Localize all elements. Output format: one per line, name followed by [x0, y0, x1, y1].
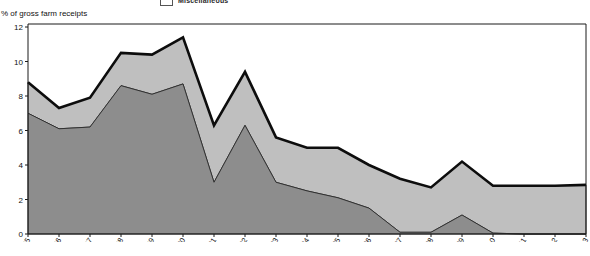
area-chart-svg: 024681012 199519961997199819992000200120… — [0, 20, 590, 242]
legend-item-label: Miscellaneous — [178, 0, 228, 5]
legend-item-miscellaneous[interactable]: Miscellaneous — [160, 0, 228, 6]
x-tick-label: 2009 — [449, 236, 466, 242]
x-tick-label: 2011 — [512, 236, 528, 242]
y-axis-ticks: 024681012 — [14, 23, 28, 239]
x-axis-ticks: 1995199619971998199920002001200220032004… — [15, 234, 590, 242]
x-tick-label: 1997 — [77, 236, 94, 242]
x-tick-label: 2001 — [201, 236, 218, 242]
x-tick-label: 2012 — [542, 236, 559, 242]
x-tick-label: 2007 — [387, 236, 404, 242]
x-tick-label: 2006 — [356, 236, 373, 242]
stacked-areas — [28, 37, 586, 234]
chart-legend: Miscellaneous — [0, 0, 590, 9]
y-tick-label: 4 — [19, 161, 24, 170]
x-tick-label: 2005 — [325, 236, 342, 242]
x-tick-label: 1998 — [108, 236, 125, 242]
y-tick-label: 12 — [14, 23, 23, 32]
y-tick-label: 10 — [14, 58, 23, 67]
x-tick-label: 2008 — [418, 236, 435, 242]
plot-area: 024681012 199519961997199819992000200120… — [0, 20, 590, 240]
chart-root: Miscellaneous % of gross farm receipts 0… — [0, 0, 590, 256]
x-tick-label: 2010 — [480, 236, 497, 242]
x-tick-label: 2003 — [263, 236, 280, 242]
x-tick-label: 2004 — [294, 236, 311, 242]
y-axis-title: % of gross farm receipts — [1, 9, 87, 19]
y-tick-label: 6 — [19, 127, 24, 136]
x-tick-label: 2000 — [170, 236, 187, 242]
x-tick-label: 1996 — [46, 236, 63, 242]
y-tick-label: 2 — [19, 196, 24, 205]
x-tick-label: 2013 — [573, 236, 590, 242]
x-tick-label: 2002 — [232, 236, 249, 242]
y-tick-label: 8 — [19, 92, 24, 101]
x-tick-label: 1999 — [139, 236, 156, 242]
legend-swatch-icon — [160, 0, 173, 6]
